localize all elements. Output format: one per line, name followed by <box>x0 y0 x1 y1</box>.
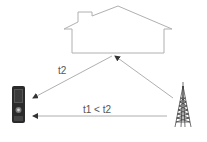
diagram-canvas <box>0 0 207 142</box>
label-direct-path: t1 < t2 <box>83 105 111 115</box>
arrow-tower-to-house <box>115 56 173 98</box>
arrow-house-to-phone <box>33 56 112 98</box>
cell-tower-icon <box>175 82 191 127</box>
house-icon <box>64 6 172 53</box>
mobile-phone-icon <box>12 86 25 123</box>
label-reflected-path: t2 <box>58 66 66 76</box>
